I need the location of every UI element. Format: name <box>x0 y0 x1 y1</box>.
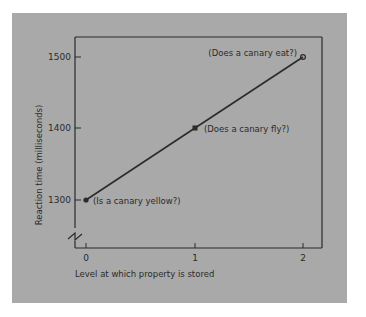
x-ticks <box>86 243 303 248</box>
data-point-level-1 <box>193 126 198 131</box>
y-tick-labels: 1500 1400 1300 <box>48 52 71 205</box>
annotation-level-0: (Is a canary yellow?) <box>93 196 181 206</box>
y-tick-label: 1500 <box>48 52 71 62</box>
data-point-level-0 <box>83 197 88 202</box>
x-tick-labels: 0 1 2 <box>83 253 306 263</box>
x-axis-title: Level at which property is stored <box>75 269 214 279</box>
y-tick-label: 1400 <box>48 123 71 133</box>
chart-svg: 1500 1400 1300 0 1 2 (Is a canary yellow… <box>0 0 366 317</box>
x-tick-label: 1 <box>192 253 198 263</box>
y-axis-title: Reaction time (milliseconds) <box>34 105 44 226</box>
annotation-level-2: (Does a canary eat?) <box>208 48 297 58</box>
y-tick-label: 1300 <box>48 195 71 205</box>
annotation-level-1: (Does a canary fly?) <box>204 124 289 134</box>
axis-break-icon <box>68 233 82 240</box>
x-tick-label: 2 <box>300 253 306 263</box>
y-ticks <box>75 57 81 200</box>
x-tick-label: 0 <box>83 253 89 263</box>
